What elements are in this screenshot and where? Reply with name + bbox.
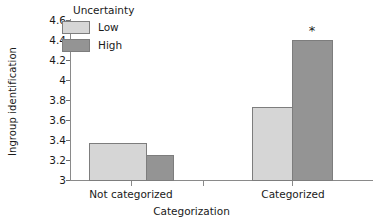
significance-star-categorized-high: * — [302, 26, 322, 36]
legend-label-low: Low — [98, 20, 119, 35]
legend-swatch-low-icon — [62, 21, 90, 34]
x-axis-label-categorized: Categorized — [247, 188, 339, 200]
x-axis-label-not-categorized: Not categorized — [71, 188, 191, 200]
ingroup-identification-bar-chart: Ingroup identification 3 3.2 3.4 3.6 3.8… — [0, 0, 383, 222]
legend-title: Uncertainty — [73, 4, 134, 16]
bar-categorized-low — [252, 107, 293, 181]
bar-not-categorized-high — [146, 155, 174, 181]
legend-swatch-high-icon — [62, 39, 90, 52]
bar-categorized-high — [292, 40, 333, 181]
bar-not-categorized-low — [89, 143, 147, 181]
legend-label-high: High — [98, 38, 122, 53]
x-axis-title: Categorization — [0, 205, 383, 217]
